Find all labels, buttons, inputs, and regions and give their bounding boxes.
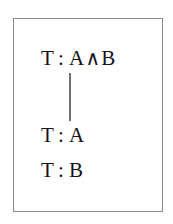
premise-right-operand: B bbox=[101, 46, 115, 70]
conclusion-a-formula: A bbox=[69, 123, 84, 147]
tableau-figure: T:A∧B T:A T:B bbox=[0, 0, 173, 224]
conjunction-icon: ∧ bbox=[84, 47, 101, 69]
tableau-edge-line bbox=[69, 73, 71, 121]
conclusion-a-colon: : bbox=[54, 123, 69, 147]
tableau-node-conclusion-b: T:B bbox=[41, 160, 83, 181]
conclusion-b-sign-label: T bbox=[41, 158, 54, 182]
premise-sign-label: T bbox=[41, 46, 54, 70]
conclusion-b-colon: : bbox=[54, 158, 69, 182]
conclusion-b-formula: B bbox=[69, 158, 83, 182]
figure-frame-border: T:A∧B T:A T:B bbox=[13, 18, 163, 212]
conclusion-a-sign-label: T bbox=[41, 123, 54, 147]
tableau-node-conclusion-a: T:A bbox=[41, 125, 84, 146]
premise-colon: : bbox=[54, 46, 69, 70]
tableau-node-premise: T:A∧B bbox=[41, 48, 116, 69]
premise-left-operand: A bbox=[69, 46, 84, 70]
